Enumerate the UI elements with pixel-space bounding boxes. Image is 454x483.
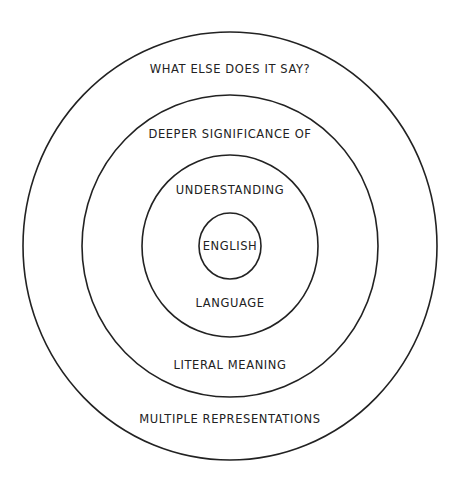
label-deeper-significance-of: DEEPER SIGNIFICANCE OF	[148, 127, 311, 141]
label-english: ENGLISH	[203, 239, 258, 253]
concentric-circle-diagram: WHAT ELSE DOES IT SAY? DEEPER SIGNIFICAN…	[0, 0, 454, 483]
label-multiple-representations: MULTIPLE REPRESENTATIONS	[139, 412, 320, 426]
label-understanding: UNDERSTANDING	[176, 183, 285, 197]
label-language: LANGUAGE	[195, 296, 264, 310]
label-literal-meaning: LITERAL MEANING	[173, 358, 286, 372]
label-what-else-does-it-say: WHAT ELSE DOES IT SAY?	[150, 62, 311, 76]
